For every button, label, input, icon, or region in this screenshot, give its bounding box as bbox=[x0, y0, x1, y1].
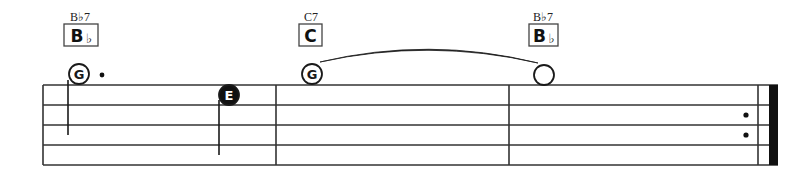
augmentation-dot bbox=[100, 73, 105, 78]
music-score: B♭7B♭C7CB♭7B♭ GEG bbox=[0, 0, 810, 179]
chord-symbol: B♭7B♭ bbox=[529, 10, 558, 46]
flat-icon: ♭ bbox=[86, 31, 92, 46]
note-letter-label: G bbox=[74, 67, 85, 82]
note-g-whole: G bbox=[302, 64, 322, 84]
note-blank-whole bbox=[534, 65, 554, 85]
notes: GEG bbox=[68, 64, 554, 155]
chord-name-label: B♭7 bbox=[70, 10, 90, 24]
tie-curve bbox=[320, 49, 538, 63]
repeat-dot bbox=[743, 132, 748, 137]
note-letter-label: E bbox=[225, 88, 234, 103]
chord-name-label: C7 bbox=[304, 10, 318, 24]
tie-arc bbox=[320, 49, 538, 63]
flat-icon: ♭ bbox=[549, 31, 555, 46]
chord-symbol: B♭7B♭ bbox=[64, 10, 98, 46]
chord-name-label: B♭7 bbox=[533, 10, 553, 24]
staff-lines bbox=[43, 85, 778, 165]
repeat-dot bbox=[743, 112, 748, 117]
chord-box-letter: B bbox=[71, 26, 84, 46]
note-letter-label: G bbox=[307, 67, 318, 82]
chord-symbols: B♭7B♭C7CB♭7B♭ bbox=[64, 10, 558, 46]
final-barline-thick bbox=[769, 85, 778, 165]
chord-symbol: C7C bbox=[299, 10, 322, 46]
chord-box-letter: B bbox=[533, 26, 546, 46]
note-head bbox=[534, 65, 554, 85]
chord-box-letter: C bbox=[304, 26, 316, 46]
